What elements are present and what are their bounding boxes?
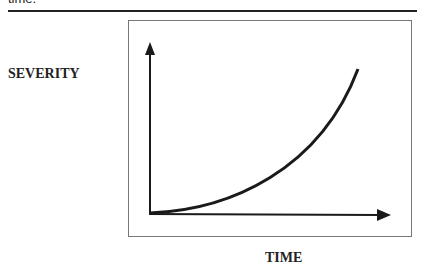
- y-axis: [145, 42, 155, 214]
- x-axis-arrow-icon: [377, 209, 391, 221]
- x-axis-label: TIME: [265, 250, 302, 266]
- severity-curve: [150, 69, 358, 213]
- severity-time-diagram: [0, 0, 428, 267]
- y-axis-arrow-icon: [145, 42, 155, 55]
